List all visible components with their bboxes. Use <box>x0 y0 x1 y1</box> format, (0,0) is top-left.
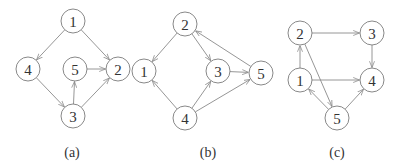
caption-b: (b) <box>200 145 217 161</box>
node-label: 2 <box>296 26 304 42</box>
node-label: 5 <box>71 62 79 78</box>
caption-c: (c) <box>329 145 345 161</box>
edge-a-1-to-2 <box>81 30 109 60</box>
node-label: 4 <box>181 111 189 127</box>
graph-figure: 145232135423145 (a)(b)(c) <box>0 0 405 167</box>
node-label: 3 <box>368 26 376 42</box>
node-a-1: 1 <box>61 9 85 33</box>
node-c-3: 3 <box>360 21 384 45</box>
node-label: 3 <box>69 109 77 125</box>
node-label: 2 <box>181 17 189 33</box>
captions-layer: (a)(b)(c) <box>64 145 345 161</box>
edge-a-3-to-5 <box>74 82 75 105</box>
edge-b-2-to-1 <box>152 33 177 62</box>
edge-a-1-to-4 <box>37 30 65 60</box>
caption-a: (a) <box>64 145 80 161</box>
node-c-5: 5 <box>325 106 349 130</box>
node-label: 1 <box>69 14 77 30</box>
edge-b-4-to-5 <box>195 79 250 112</box>
edge-b-2-to-3 <box>192 34 211 61</box>
node-a-5: 5 <box>63 57 87 81</box>
edge-a-4-to-3 <box>36 78 64 107</box>
node-b-2: 2 <box>173 12 197 36</box>
node-label: 4 <box>368 73 376 89</box>
node-b-5: 5 <box>249 61 273 85</box>
node-a-2: 2 <box>106 57 130 81</box>
node-b-4: 4 <box>173 106 197 130</box>
edge-b-3-to-5 <box>230 72 249 73</box>
node-b-3: 3 <box>206 59 230 83</box>
node-label: 2 <box>114 62 122 78</box>
node-a-4: 4 <box>16 57 40 81</box>
node-label: 4 <box>24 62 32 78</box>
node-b-1: 1 <box>132 59 156 83</box>
nodes-layer: 145232135423145 <box>16 9 384 130</box>
node-a-3: 3 <box>61 104 85 128</box>
node-c-1: 1 <box>288 68 312 92</box>
node-c-2: 2 <box>288 21 312 45</box>
node-label: 1 <box>296 73 304 89</box>
node-label: 5 <box>257 66 265 82</box>
edge-b-4-to-1 <box>152 80 177 109</box>
node-label: 1 <box>140 64 148 80</box>
edge-c-5-to-4 <box>345 89 363 109</box>
node-c-4: 4 <box>360 68 384 92</box>
node-label: 3 <box>214 64 222 80</box>
node-label: 5 <box>333 111 341 127</box>
edge-a-3-to-2 <box>81 78 109 107</box>
